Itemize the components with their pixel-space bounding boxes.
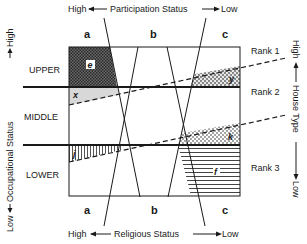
- arrow-left-icon: [88, 7, 94, 12]
- arrow-right-icon: [214, 7, 220, 12]
- bottom-axis-label: Religious Status: [114, 229, 180, 239]
- stratification-diagram: e x y j k f a b c a b c UPPER MIDDLE LOW…: [0, 0, 307, 244]
- region-x-label: x: [72, 90, 79, 100]
- top-axis-low: Low: [221, 4, 238, 14]
- arrow-up-icon: [8, 48, 13, 53]
- left-axis-label: Occupational Status: [5, 121, 15, 202]
- participation-ab-line: [104, 18, 140, 197]
- region-e-label: e: [88, 60, 93, 70]
- bottom-axis-low: Low: [222, 229, 239, 239]
- left-axis-low: Low: [5, 215, 15, 232]
- region-j-fill: [69, 145, 124, 162]
- arrow-up-icon: [294, 62, 299, 68]
- row-lower: LOWER: [26, 170, 60, 180]
- row-middle: MIDDLE: [24, 112, 58, 122]
- column-c-bottom: c: [222, 204, 228, 216]
- column-b-top: b: [150, 28, 157, 40]
- region-f-fill: [178, 145, 240, 196]
- arrow-left-icon: [90, 232, 96, 237]
- region-y-label: y: [228, 74, 235, 84]
- right-axis-low: Low: [291, 181, 301, 198]
- bottom-axis-high: High: [68, 229, 87, 239]
- arrow-down-icon: [8, 208, 13, 213]
- arrow-down-icon: [294, 174, 299, 180]
- column-c-top: c: [222, 28, 228, 40]
- top-axis-label: Participation Status: [110, 4, 188, 14]
- column-a-bottom: a: [84, 204, 91, 216]
- right-axis-high: High: [291, 40, 301, 59]
- rank-1: Rank 1: [251, 46, 280, 56]
- right-axis-label: House Type: [291, 85, 301, 133]
- region-j-label: j: [72, 149, 76, 159]
- top-axis-high: High: [68, 4, 87, 14]
- row-upper: UPPER: [29, 65, 61, 75]
- column-a-top: a: [84, 28, 91, 40]
- rank-2-3-dashed-line: [69, 115, 286, 162]
- left-axis-high: High: [5, 28, 15, 47]
- rank-3: Rank 3: [251, 163, 280, 173]
- rank-2: Rank 2: [251, 87, 280, 97]
- column-b-bottom: b: [151, 204, 158, 216]
